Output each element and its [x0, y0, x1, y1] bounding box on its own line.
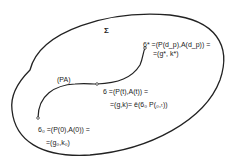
middle-point	[96, 83, 99, 86]
end-point-label-2: =(g*, k*)	[153, 50, 178, 58]
start-point-label-1: 6₀ =(P(0),A(0)) =	[38, 126, 90, 134]
end-point-label-1: 6* =(P(d_p),A(d_p)) =	[143, 41, 210, 49]
middle-point-label-1: 6 =(P(t),A(t)) =	[103, 88, 148, 96]
region-boundary	[12, 14, 224, 155]
start-point-label-2: =(g₀,k₀)	[46, 139, 70, 147]
region-label: Σ	[104, 26, 109, 35]
diagram-canvas	[0, 0, 230, 163]
path-label: (PA)	[57, 76, 70, 84]
start-point	[37, 117, 40, 120]
middle-point-label-2: =(g,k)= ê(6₀ P(₀,ₜ))	[110, 101, 168, 109]
